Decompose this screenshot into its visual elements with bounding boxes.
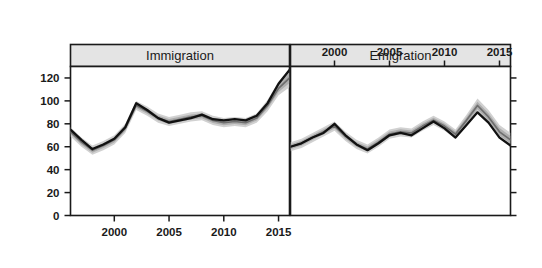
panel-emigration: Emigration2000200520102015 xyxy=(291,45,513,216)
x-tick-label-emigration-2010: 2010 xyxy=(432,46,458,58)
y-tick-label-120: 120 xyxy=(40,72,59,84)
y-tick-label-60: 60 xyxy=(47,141,60,153)
y-tick-label-80: 80 xyxy=(47,118,60,130)
y-tick-label-20: 20 xyxy=(47,187,60,199)
x-tick-label-immigration-2010: 2010 xyxy=(211,226,237,238)
x-tick-label-immigration-2015: 2015 xyxy=(266,226,292,238)
x-tick-label-immigration-2000: 2000 xyxy=(102,226,128,238)
immigration-emigration-panel-chart: Immigration2000200520102015Emigration200… xyxy=(0,0,542,268)
panel-immigration: Immigration2000200520102015 xyxy=(71,45,292,238)
y-tick-label-40: 40 xyxy=(47,164,60,176)
y-tick-label-0: 0 xyxy=(53,210,59,222)
panel-title-immigration: Immigration xyxy=(146,48,214,63)
x-tick-label-emigration-2000: 2000 xyxy=(322,46,348,58)
plot-frame-emigration xyxy=(291,67,511,216)
x-tick-label-immigration-2005: 2005 xyxy=(156,226,182,238)
x-tick-label-emigration-2005: 2005 xyxy=(377,46,403,58)
y-tick-label-100: 100 xyxy=(40,95,59,107)
x-tick-label-emigration-2015: 2015 xyxy=(487,46,513,58)
